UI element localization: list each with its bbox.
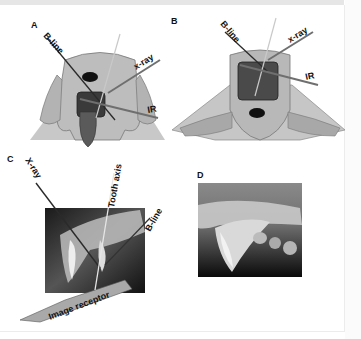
panel-a-ir-label: IR	[147, 103, 158, 114]
panel-b-label: B	[171, 16, 178, 26]
panel-d-label: D	[197, 170, 204, 180]
panel-a-bline-label: B-line	[42, 31, 66, 56]
figure-graphic: A B-line x-ray IR B B-line x-ray IR C X-…	[0, 0, 361, 339]
panel-d-radiograph	[198, 183, 302, 277]
panel-c-xray-label: X-ray	[23, 156, 43, 180]
panel-a-illustration	[30, 34, 165, 147]
panel-c-bline-label: B-line	[143, 206, 164, 233]
panel-b-bline-label: B-line	[218, 19, 242, 45]
panel-c-tooth-axis-label: Tooth axis	[106, 163, 124, 208]
panel-a-xray-label: x-ray	[132, 52, 156, 72]
panel-c-label: C	[7, 154, 14, 164]
panel-a-label: A	[31, 20, 38, 30]
panel-b-ir-label: IR	[304, 70, 315, 82]
panel-b-illustration	[172, 18, 345, 140]
